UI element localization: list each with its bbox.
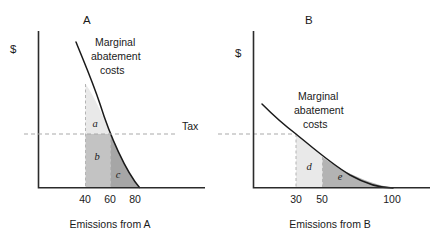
panel-a-x-axis-label: Emissions from A (69, 218, 150, 230)
tick-a-80: 80 (129, 193, 141, 205)
abatement-cost-figure: A $ Marginal abatement costs a b c 40 60… (0, 0, 439, 241)
panel-b-x-axis-label: Emissions from B (289, 218, 371, 230)
panel-a-y-axis-label: $ (10, 43, 17, 55)
panel-b-y-axis-label: $ (235, 47, 242, 59)
region-label-c: c (116, 169, 121, 180)
panel-b-curve-label-line-2: abatement (294, 104, 344, 116)
region-label-e: e (338, 171, 343, 182)
tick-b-30: 30 (290, 193, 302, 205)
region-label-b: b (94, 151, 99, 162)
panel-a-title: A (83, 14, 91, 26)
tick-a-40: 40 (79, 193, 91, 205)
figure-container: A $ Marginal abatement costs a b c 40 60… (0, 0, 439, 241)
tick-b-100: 100 (383, 193, 401, 205)
panel-a-curve-label-line-1: Marginal (95, 36, 135, 48)
tax-label: Tax (182, 120, 199, 132)
tick-b-50: 50 (316, 193, 328, 205)
region-e-shape (323, 157, 393, 188)
region-label-d: d (306, 161, 312, 172)
panel-a-curve-label-line-3: costs (100, 64, 125, 76)
panel-b-curve-label-line-3: costs (303, 118, 328, 130)
panel-a-curve-label-line-2: abatement (91, 50, 141, 62)
panel-b-curve-label-line-1: Marginal (298, 90, 338, 102)
tax-level-group: Tax (24, 120, 199, 134)
region-label-a: a (92, 118, 97, 129)
panel-a: A $ Marginal abatement costs a b c 40 60… (10, 14, 205, 230)
tick-a-60: 60 (104, 193, 116, 205)
region-a-shape (86, 84, 111, 134)
panel-b-title: B (305, 14, 313, 26)
panel-b: B $ Marginal abatement costs d e 30 50 1… (218, 14, 430, 230)
